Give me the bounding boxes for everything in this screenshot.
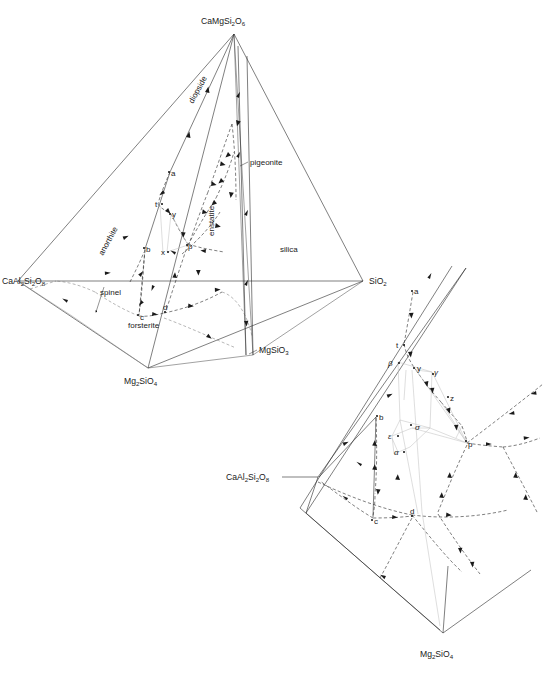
point-marker-y	[169, 213, 171, 215]
vertex-label-diopside: CaMgSi2O6	[201, 16, 246, 27]
field-label-forsterite: forsterite	[128, 321, 160, 330]
detail-point-label-y: y	[417, 364, 421, 373]
detail-point-label-c: c	[374, 517, 378, 526]
detail-vertex-labels: CaAl2Si2O8 Mg2SiO4	[226, 472, 454, 660]
main-tetrahedron-edges	[18, 34, 363, 368]
detail-point-label-epsilon: ε	[388, 432, 392, 441]
detail-point-marker-a	[411, 290, 413, 292]
detail-tetrahedron-edges	[282, 266, 531, 633]
detail-point-label-b: b	[379, 413, 384, 422]
main-point-labels: a b c d t y x p	[137, 169, 193, 322]
detail-point-marker-t	[403, 344, 405, 346]
point-label-y: y	[172, 210, 176, 219]
point-label-t: t	[155, 200, 158, 209]
point-marker-b	[143, 247, 145, 249]
diagram-canvas: CaMgSi2O6 CaAl2Si2O8 SiO2 Mg2SiO4 MgSiO3…	[0, 0, 547, 675]
field-label-pigeonite: pigeonite	[250, 158, 283, 167]
detail-point-label-beta: β	[387, 359, 393, 368]
detail-point-label-alpha: α	[394, 448, 399, 457]
point-marker-a	[168, 171, 170, 173]
detail-point-marker-sigma	[410, 424, 412, 426]
field-label-diopside: diopside	[187, 74, 209, 105]
field-label-spinel: spinel	[100, 288, 121, 297]
point-label-b: b	[146, 245, 151, 254]
main-liquidus-boundaries	[18, 34, 253, 368]
detail-point-label-z: z	[450, 394, 454, 403]
point-label-a: a	[171, 169, 176, 178]
detail-point-labels: a b c d t y p z α β γ σ ε	[371, 287, 473, 526]
detail-point-marker-b	[376, 415, 378, 417]
point-label-d: d	[163, 303, 167, 312]
field-label-anorthite: anorthite	[97, 225, 120, 257]
point-marker-c	[137, 314, 139, 316]
point-marker-x	[167, 251, 169, 253]
point-label-c: c	[140, 313, 144, 322]
vertex-label-anorthite: CaAl2Si2O8	[2, 276, 46, 287]
phase-diagram-figure: CaMgSi2O6 CaAl2Si2O8 SiO2 Mg2SiO4 MgSiO3…	[0, 0, 547, 675]
vertex-label-silica: SiO2	[369, 276, 387, 287]
detail-point-label-d: d	[410, 507, 414, 516]
field-label-silica: silica	[280, 245, 298, 254]
detail-point-label-t: t	[396, 341, 399, 350]
main-vertex-labels: CaMgSi2O6 CaAl2Si2O8 SiO2 Mg2SiO4 MgSiO3	[2, 16, 387, 387]
detail-vertex-label-forsterite: Mg2SiO4	[420, 649, 454, 660]
point-marker-t	[161, 203, 163, 205]
vertex-label-forsterite: Mg2SiO4	[124, 376, 158, 387]
detail-point-marker-beta	[398, 362, 400, 364]
point-label-p: p	[188, 242, 193, 251]
point-label-x: x	[161, 248, 165, 257]
detail-point-label-sigma: σ	[415, 423, 421, 432]
detail-point-marker-y	[413, 367, 415, 369]
detail-point-marker-epsilon	[397, 435, 399, 437]
detail-point-label-p: p	[468, 440, 473, 449]
detail-point-marker-c	[371, 519, 373, 521]
detail-point-label-gamma: γ	[434, 368, 439, 377]
detail-point-marker-p	[465, 440, 467, 442]
vertex-label-enstatite-join: MgSiO3	[259, 345, 289, 356]
detail-vertex-label-anorthite: CaAl2Si2O8	[226, 472, 270, 483]
detail-point-marker-alpha	[403, 451, 405, 453]
detail-arrowheads	[342, 273, 536, 579]
detail-liquidus-boundaries	[319, 292, 543, 633]
field-label-enstatite: enstatite	[207, 205, 216, 236]
detail-point-marker-z	[447, 396, 449, 398]
detail-point-label-a: a	[414, 287, 419, 296]
